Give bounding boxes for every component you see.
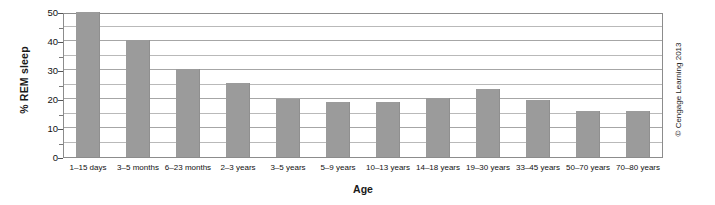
y-axis-tick [58,100,63,101]
bar [176,69,200,157]
y-axis-tick [58,129,63,130]
copyright-credit: © Cengage Learning 2013 [672,14,686,164]
y-axis-tick-label: 30 [36,66,58,76]
bar [626,111,650,157]
y-axis-tick [59,86,63,87]
y-axis-tick-label: 10 [36,124,58,134]
y-axis-tick [58,13,63,14]
bar [426,98,450,157]
bar [376,102,400,157]
y-axis-tick-labels: 01020304050 [34,0,58,205]
bar [326,102,350,157]
y-axis-tick [58,42,63,43]
y-axis-title: % REM sleep [16,0,32,160]
bar [76,12,100,157]
bar [126,40,150,157]
y-axis-tick-label: 20 [36,95,58,105]
y-axis-tick [58,71,63,72]
copyright-credit-label: © Cengage Learning 2013 [675,42,684,136]
x-axis-tick-labels: 1–15 days3–5 months6–23 months2–3 years3… [63,163,663,177]
bar [226,83,250,157]
bar [526,100,550,157]
y-axis-title-label: % REM sleep [18,46,30,114]
y-axis-tick-label: 40 [36,37,58,47]
y-axis-tick [58,158,63,159]
y-axis-tick [59,28,63,29]
x-axis-tick-label: 70–80 years [603,163,673,173]
y-axis-tick [59,115,63,116]
y-axis-tick-label: 50 [36,8,58,18]
bar [476,89,500,157]
y-axis-tick [59,57,63,58]
bar-series [64,14,662,157]
bar [576,111,600,157]
rem-sleep-bar-chart: % REM sleep 01020304050 1–15 days3–5 mon… [0,0,715,205]
plot-area [63,13,663,158]
x-axis-title: Age [63,183,663,195]
bar [276,99,300,157]
y-axis-tick [59,144,63,145]
y-axis-tick-label: 0 [36,153,58,163]
